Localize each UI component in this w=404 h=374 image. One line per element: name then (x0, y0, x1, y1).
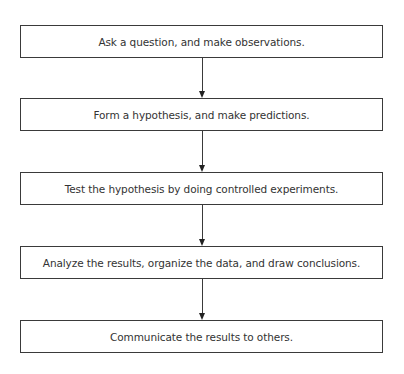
step-label: Form a hypothesis, and make predictions. (93, 109, 309, 121)
step-box-analyze-results: Analyze the results, organize the data, … (20, 246, 383, 279)
arrow-down-icon (199, 91, 205, 98)
connector-line (202, 131, 203, 165)
step-box-communicate-results: Communicate the results to others. (20, 320, 383, 353)
arrow-down-icon (199, 313, 205, 320)
arrow-down-icon (199, 239, 205, 246)
step-box-ask-question: Ask a question, and make observations. (20, 25, 383, 58)
step-label: Analyze the results, organize the data, … (43, 257, 360, 269)
arrow-down-icon (199, 165, 205, 172)
connector-line (202, 279, 203, 313)
step-box-test-hypothesis: Test the hypothesis by doing controlled … (20, 172, 383, 205)
step-label: Communicate the results to others. (110, 331, 293, 343)
step-box-form-hypothesis: Form a hypothesis, and make predictions. (20, 98, 383, 131)
connector-line (202, 58, 203, 91)
step-label: Ask a question, and make observations. (98, 36, 304, 48)
connector-line (202, 205, 203, 239)
step-label: Test the hypothesis by doing controlled … (65, 183, 339, 195)
